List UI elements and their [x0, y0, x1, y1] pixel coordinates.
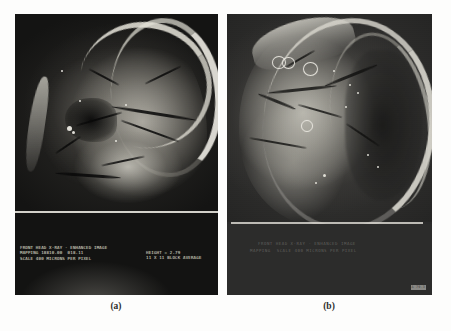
panel-a-image [15, 14, 218, 212]
roi-ring-marker [301, 120, 313, 132]
bright-speck [72, 131, 75, 134]
bright-speck [115, 140, 117, 142]
bright-speck [125, 104, 127, 106]
panel-b-annotation-line-1: FRONT HEAD X-RAY - ENHANCED IMAGE [258, 241, 356, 247]
panel-b-corner-tag: A 79-3 [411, 285, 426, 290]
panel-a-annotation-left: FRONT HEAD X-RAY - ENHANCED IMAGE MAPPIN… [20, 245, 107, 261]
bright-speck [323, 174, 326, 177]
bright-speck [61, 70, 63, 72]
bright-speck [357, 92, 359, 94]
panel-b-caption: (b) [309, 301, 349, 311]
panel-b-annotation-block [227, 224, 432, 295]
bright-speck [367, 154, 369, 156]
bright-speck [345, 106, 347, 108]
figure-root: FRONT HEAD X-RAY - ENHANCED IMAGE MAPPIN… [0, 0, 451, 331]
bright-speck [333, 70, 335, 72]
panel-a-caption: (a) [96, 301, 136, 311]
bright-speck [79, 100, 81, 102]
panel-a-annotation-right: HEIGHT = 2.79 11 X 11 BLOCK AVERAGE [146, 250, 202, 261]
bright-speck [67, 126, 72, 131]
panel-b-image [227, 14, 432, 222]
roi-ring-marker [282, 57, 295, 69]
panel-b-annotation-line-2: MAPPING SCALE 400 MICRONS PER PIXEL [250, 248, 357, 254]
bright-speck [377, 166, 379, 168]
roi-ring-marker [303, 62, 318, 76]
